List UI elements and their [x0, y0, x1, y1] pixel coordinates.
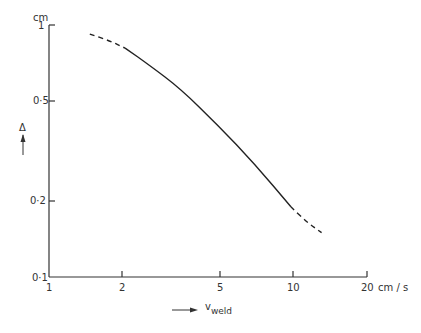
chart-canvas: cm 1 0·5 0·2 0·1 Δ 1 2 5 10 20 cm / s vw…	[0, 0, 421, 333]
curve-segment-dashed	[291, 207, 322, 233]
y-tick-label-0.2: 0·2	[30, 195, 46, 206]
y-arrow-icon	[21, 134, 26, 155]
x-arrow-icon	[172, 308, 198, 313]
x-tick-label-20: 20	[361, 282, 374, 293]
x-tick-label-10: 10	[287, 282, 300, 293]
x-tick-label-5: 5	[217, 282, 223, 293]
curve-segment-dashed	[90, 34, 125, 48]
curve-segment-solid	[125, 48, 291, 207]
y-tick-label-1: 1	[38, 20, 44, 31]
x-unit-label: cm / s	[378, 282, 408, 293]
y-tick-label-0.5: 0·5	[33, 95, 49, 106]
x-axis-label-sub: weld	[211, 306, 232, 316]
data-curve	[90, 34, 322, 233]
y-axis-symbol: Δ	[19, 122, 26, 133]
x-tick-label-1: 1	[46, 282, 52, 293]
x-tick-label-2: 2	[119, 282, 125, 293]
x-axis-label: vweld	[205, 301, 232, 316]
